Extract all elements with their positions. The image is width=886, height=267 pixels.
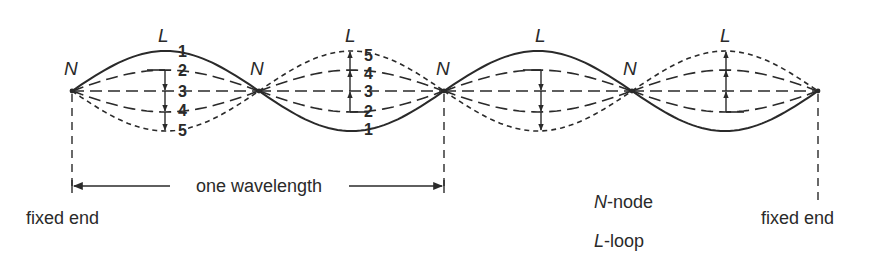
loop-label: L bbox=[158, 25, 169, 46]
legend-node-symbol: N bbox=[594, 192, 608, 212]
wavelength-dimension: one wavelength bbox=[72, 176, 444, 196]
diagram-canvas: N N N N L L L L 1 2 3 4 5 5 4 3 2 1 bbox=[0, 0, 886, 267]
legend-loop: L-loop bbox=[594, 231, 644, 251]
position-number: 4 bbox=[364, 65, 373, 82]
node-label: N bbox=[436, 58, 450, 79]
node-point bbox=[816, 89, 821, 94]
legend: N-node L-loop bbox=[594, 192, 653, 251]
node-label: N bbox=[623, 58, 637, 79]
loop-label: L bbox=[535, 25, 546, 46]
node-point bbox=[257, 89, 262, 94]
wave-position-1 bbox=[444, 51, 632, 91]
position-number: 2 bbox=[364, 103, 373, 120]
fixed-end-label-left: fixed end bbox=[26, 208, 99, 228]
position-number: 4 bbox=[178, 102, 187, 119]
wave-position-5 bbox=[444, 91, 632, 131]
wavelength-label: one wavelength bbox=[196, 176, 322, 196]
node-point bbox=[70, 89, 75, 94]
wave-position-1 bbox=[632, 91, 818, 131]
position-numbers-loop-1: 1 2 3 4 5 bbox=[178, 43, 187, 139]
standing-wave-diagram: N N N N L L L L 1 2 3 4 5 5 4 3 2 1 bbox=[0, 0, 886, 267]
position-number: 1 bbox=[364, 121, 373, 138]
legend-node-text: -node bbox=[607, 192, 653, 212]
node-label: N bbox=[250, 58, 264, 79]
node-point bbox=[442, 89, 447, 94]
legend-loop-symbol: L bbox=[594, 231, 604, 251]
position-number: 5 bbox=[178, 122, 187, 139]
position-number: 1 bbox=[178, 43, 187, 60]
position-number: 3 bbox=[364, 83, 373, 100]
position-number: 2 bbox=[178, 62, 187, 79]
loop-labels: L L L L bbox=[158, 25, 731, 46]
wave-position-5 bbox=[632, 51, 818, 91]
position-numbers-loop-2: 5 4 3 2 1 bbox=[364, 47, 373, 138]
loop-label: L bbox=[345, 25, 356, 46]
fixed-end-label-right: fixed end bbox=[761, 208, 834, 228]
legend-loop-text: -loop bbox=[604, 231, 644, 251]
node-label: N bbox=[64, 58, 78, 79]
position-number: 3 bbox=[178, 83, 187, 100]
wave-position-5 bbox=[259, 51, 444, 91]
wave-position-1 bbox=[259, 91, 444, 131]
position-number: 5 bbox=[364, 47, 373, 64]
loop-label: L bbox=[720, 25, 731, 46]
node-point bbox=[630, 89, 635, 94]
legend-node: N-node bbox=[594, 192, 653, 212]
